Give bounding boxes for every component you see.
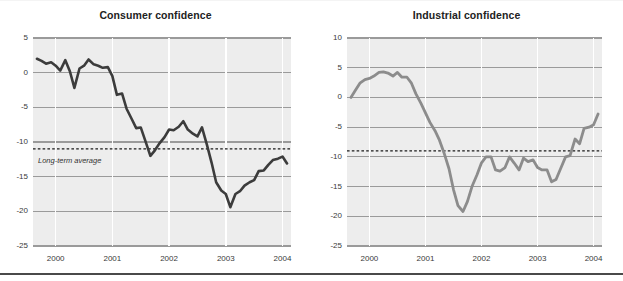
y-axis-tick-label: -10 <box>315 153 342 161</box>
plot-area-consumer-confidence <box>33 38 291 246</box>
x-axis-tick-label: 2000 <box>36 255 76 263</box>
chart-title-industrial-confidence: Industrial confidence <box>311 9 622 21</box>
x-axis-tick-label: 2000 <box>349 255 389 263</box>
plot-svg-consumer-confidence <box>33 38 291 246</box>
y-axis-tick-label: -20 <box>4 207 28 215</box>
y-axis-tick-label: 0 <box>4 69 28 77</box>
x-axis-tick-label: 2003 <box>206 255 246 263</box>
y-axis-tick-label: -15 <box>4 173 28 181</box>
y-axis-tick-label: -25 <box>4 242 28 250</box>
y-axis-tick-label: -5 <box>315 123 342 131</box>
y-axis-tick-label: -20 <box>315 212 342 220</box>
long-term-average-label-left: Long-term average <box>38 157 101 165</box>
plot-area-industrial-confidence <box>347 38 602 246</box>
chart-title-consumer-confidence: Consumer confidence <box>0 9 311 21</box>
x-axis-tick-label: 2004 <box>262 255 302 263</box>
y-axis-tick-label: 5 <box>315 64 342 72</box>
chart-panel-industrial-confidence: Industrial confidence Long-term average … <box>311 0 622 281</box>
x-axis-tick-label: 2002 <box>462 255 502 263</box>
chart-panel-consumer-confidence: Consumer confidence Long-term average 50… <box>0 0 311 281</box>
x-axis-tick-label: 2003 <box>518 255 558 263</box>
y-axis-tick-label: 10 <box>315 34 342 42</box>
y-axis-tick-label: 0 <box>315 93 342 101</box>
y-axis-tick-label: -10 <box>4 138 28 146</box>
y-axis-tick-label: 5 <box>4 34 28 42</box>
x-axis-tick-label: 2002 <box>149 255 189 263</box>
x-axis-tick-label: 2001 <box>405 255 445 263</box>
figure-container: Consumer confidence Long-term average 50… <box>0 0 623 281</box>
y-axis-tick-label: -15 <box>315 183 342 191</box>
y-axis-tick-label: -5 <box>4 103 28 111</box>
y-axis-tick-label: -25 <box>315 242 342 250</box>
bottom-rule-divider <box>0 273 623 275</box>
x-axis-tick-label: 2001 <box>92 255 132 263</box>
plot-svg-industrial-confidence <box>347 38 602 246</box>
x-axis-tick-label: 2004 <box>574 255 614 263</box>
